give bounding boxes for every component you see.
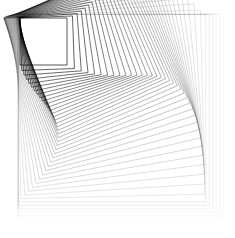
nested-squares-drawing: [0, 0, 235, 238]
square-outline: [16, 10, 204, 198]
square-outline: [18, 14, 213, 209]
generative-artwork: [0, 0, 235, 238]
